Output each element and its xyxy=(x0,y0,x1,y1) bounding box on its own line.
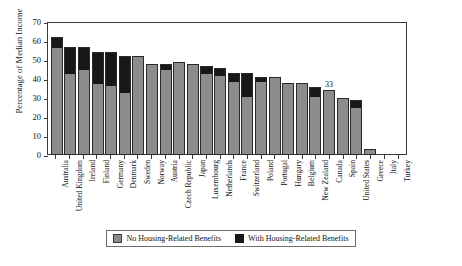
stacked-bar[interactable] xyxy=(283,84,293,154)
bar-segment-no-housing-benefits[interactable] xyxy=(338,99,348,154)
bar-segment-with-housing-benefits[interactable] xyxy=(201,67,211,75)
bar-column[interactable] xyxy=(268,23,282,154)
bar-column[interactable] xyxy=(118,23,132,154)
bar-column[interactable] xyxy=(172,23,186,154)
bar-segment-no-housing-benefits[interactable] xyxy=(120,93,130,154)
bar-segment-no-housing-benefits[interactable] xyxy=(310,97,320,154)
stacked-bar[interactable] xyxy=(161,65,171,154)
bar-segment-with-housing-benefits[interactable] xyxy=(215,69,225,77)
bar-segment-no-housing-benefits[interactable] xyxy=(256,82,266,154)
bar-column[interactable] xyxy=(390,23,404,154)
bar-segment-no-housing-benefits[interactable] xyxy=(242,97,252,154)
bar-segment-no-housing-benefits[interactable] xyxy=(229,82,239,154)
bar-column[interactable] xyxy=(213,23,227,154)
legend-item[interactable]: With Housing-Related Benefits xyxy=(235,234,349,243)
bar-segment-no-housing-benefits[interactable] xyxy=(79,70,89,154)
bar-column[interactable] xyxy=(50,23,64,154)
bar-segment-no-housing-benefits[interactable] xyxy=(161,70,171,154)
x-axis-tick xyxy=(104,155,118,159)
bar-segment-no-housing-benefits[interactable] xyxy=(283,84,293,154)
bar-column[interactable] xyxy=(159,23,173,154)
stacked-bar[interactable] xyxy=(215,69,225,155)
bar-segment-with-housing-benefits[interactable] xyxy=(351,101,361,109)
x-axis-label-cell: Norway xyxy=(145,160,159,220)
x-axis-tick xyxy=(172,155,186,159)
bar-segment-with-housing-benefits[interactable] xyxy=(52,38,62,48)
stacked-bar[interactable] xyxy=(147,65,157,154)
bar-column[interactable] xyxy=(377,23,391,154)
bar-column[interactable] xyxy=(349,23,363,154)
bar-column[interactable] xyxy=(145,23,159,154)
bar-segment-no-housing-benefits[interactable] xyxy=(270,78,280,154)
bar-segment-with-housing-benefits[interactable] xyxy=(310,88,320,98)
bar-column[interactable] xyxy=(132,23,146,154)
bar-segment-with-housing-benefits[interactable] xyxy=(79,48,89,71)
bar-segment-no-housing-benefits[interactable] xyxy=(106,86,116,154)
stacked-bar[interactable] xyxy=(52,38,62,154)
y-axis-tick-label: 30 xyxy=(33,93,42,103)
stacked-bar[interactable] xyxy=(106,53,116,154)
bar-segment-with-housing-benefits[interactable] xyxy=(106,53,116,85)
stacked-bar[interactable] xyxy=(93,53,103,154)
stacked-bar[interactable] xyxy=(338,99,348,154)
stacked-bar[interactable] xyxy=(351,101,361,154)
x-axis-tick xyxy=(117,155,131,159)
bar-column[interactable] xyxy=(91,23,105,154)
stacked-bar[interactable] xyxy=(365,150,375,154)
stacked-bar[interactable] xyxy=(201,67,211,154)
bar-column[interactable] xyxy=(241,23,255,154)
bar-column[interactable] xyxy=(309,23,323,154)
bar-segment-no-housing-benefits[interactable] xyxy=(147,65,157,154)
bar-segment-no-housing-benefits[interactable] xyxy=(297,84,307,154)
bar-segment-with-housing-benefits[interactable] xyxy=(229,74,239,82)
bar-column[interactable] xyxy=(254,23,268,154)
bar-column[interactable] xyxy=(64,23,78,154)
bar-column[interactable]: 33 xyxy=(322,23,336,154)
stacked-bar[interactable] xyxy=(310,88,320,155)
bar-column[interactable] xyxy=(363,23,377,154)
bar-segment-no-housing-benefits[interactable] xyxy=(93,84,103,154)
stacked-bar[interactable] xyxy=(120,57,130,154)
stacked-bar[interactable] xyxy=(188,65,198,154)
x-axis-tick xyxy=(282,155,296,159)
stacked-bar[interactable] xyxy=(133,57,143,154)
stacked-bar[interactable] xyxy=(65,48,75,154)
bar-segment-with-housing-benefits[interactable] xyxy=(93,53,103,83)
chart-container: Percentage of Median Income 010203040506… xyxy=(0,0,462,266)
stacked-bar[interactable] xyxy=(270,78,280,154)
x-axis-label-cell: Greece xyxy=(364,160,378,220)
bar-segment-no-housing-benefits[interactable] xyxy=(133,57,143,154)
stacked-bar[interactable] xyxy=(242,74,252,154)
bar-column[interactable] xyxy=(186,23,200,154)
bar-segment-with-housing-benefits[interactable] xyxy=(242,74,252,97)
bar-segment-no-housing-benefits[interactable] xyxy=(365,150,375,154)
stacked-bar[interactable] xyxy=(324,91,334,154)
bar-segment-with-housing-benefits[interactable] xyxy=(120,57,130,93)
bar-segment-no-housing-benefits[interactable] xyxy=(174,63,184,154)
bar-column[interactable] xyxy=(295,23,309,154)
bar-segment-no-housing-benefits[interactable] xyxy=(324,91,334,154)
bar-segment-no-housing-benefits[interactable] xyxy=(188,65,198,154)
stacked-bar[interactable] xyxy=(297,84,307,154)
bar-segment-no-housing-benefits[interactable] xyxy=(351,108,361,154)
legend-item[interactable]: No Housing-Related Benefits xyxy=(113,234,221,243)
bar-column[interactable] xyxy=(281,23,295,154)
bar-segment-with-housing-benefits[interactable] xyxy=(65,48,75,75)
x-axis-label-cell: Netherlands xyxy=(213,160,227,220)
bar-segment-no-housing-benefits[interactable] xyxy=(201,74,211,154)
stacked-bar[interactable] xyxy=(229,74,239,154)
bar-column[interactable] xyxy=(104,23,118,154)
bar-column[interactable] xyxy=(77,23,91,154)
bar-column[interactable] xyxy=(227,23,241,154)
bar-segment-no-housing-benefits[interactable] xyxy=(65,74,75,154)
bar-series: 33 xyxy=(48,23,406,154)
stacked-bar[interactable] xyxy=(256,78,266,154)
bar-segment-no-housing-benefits[interactable] xyxy=(52,48,62,154)
x-axis-label-cell: Spain xyxy=(336,160,350,220)
bar-column[interactable] xyxy=(336,23,350,154)
stacked-bar[interactable] xyxy=(79,48,89,154)
plot-area: 010203040506070 33 xyxy=(47,22,407,155)
bar-column[interactable] xyxy=(200,23,214,154)
bar-segment-no-housing-benefits[interactable] xyxy=(215,76,225,154)
stacked-bar[interactable] xyxy=(174,63,184,154)
